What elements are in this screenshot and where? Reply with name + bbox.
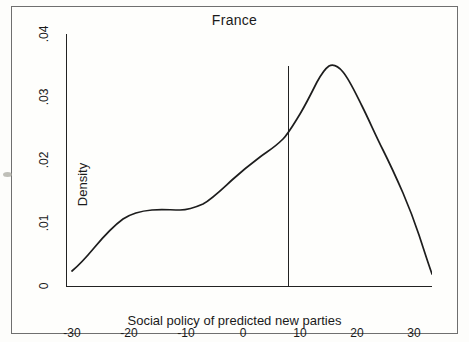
density-curve [72,65,432,274]
y-axis-label: Density [75,135,90,235]
x-tick-label: 20 [337,326,377,340]
density-plot-svg [66,34,432,287]
x-tick-label: 30 [394,326,434,340]
scan-artifact [3,172,12,177]
x-tick-label: 0 [223,326,263,340]
x-tick-label: 10 [280,326,320,340]
x-tick-label: -10 [166,326,206,340]
x-axis-label: Social policy of predicted new parties [0,313,469,328]
x-tick-label: -20 [109,326,149,340]
y-tick-label: 0 [37,266,51,306]
chart-title: France [0,12,469,28]
y-tick-label: .01 [37,203,51,243]
y-tick-label: .02 [37,140,51,180]
x-tick-label: -30 [52,326,92,340]
plot-area: -30 -20 -10 0 10 20 30 0 .01 .02 .03 .04… [66,34,432,287]
y-tick-label: .04 [37,14,51,54]
y-tick-label: .03 [37,77,51,117]
figure-canvas: France [0,0,469,342]
